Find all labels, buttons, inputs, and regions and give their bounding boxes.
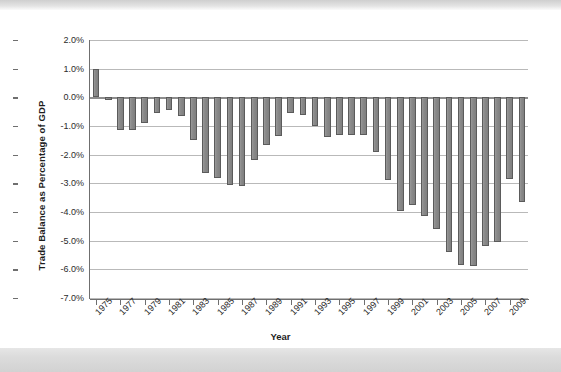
bar: [105, 97, 112, 100]
page-bottom-edge: [0, 348, 561, 372]
bar: [336, 97, 343, 134]
bar: [251, 97, 258, 160]
bar: [458, 97, 465, 265]
bar: [166, 97, 173, 110]
bar: [117, 97, 124, 130]
y-axis-tick: [13, 241, 18, 242]
y-axis-tick: [13, 155, 18, 156]
bar: [202, 97, 209, 173]
bar: [373, 97, 380, 151]
bar: [397, 97, 404, 210]
x-axis-tick: [437, 299, 438, 305]
x-axis-tick: [291, 299, 292, 305]
y-axis-tick: [13, 183, 18, 184]
y-axis-tick-label: 1.0%: [24, 64, 84, 74]
bar: [519, 97, 526, 202]
bar: [482, 97, 489, 246]
bar: [227, 97, 234, 184]
x-axis-tick: [364, 299, 365, 305]
y-axis-tick-label: 2.0%: [24, 35, 84, 45]
y-axis-tick: [13, 212, 18, 213]
y-axis-tick-label: -1.0%: [24, 121, 84, 131]
y-axis-tick-labels: 2.0%1.0%0.0%-1.0%-2.0%-3.0%-4.0%-5.0%-6.…: [18, 40, 84, 298]
y-axis-tick: [13, 40, 18, 41]
x-axis-tick: [510, 299, 511, 305]
x-axis-title: Year: [0, 331, 561, 342]
bar: [154, 97, 161, 113]
y-axis-tick-label: 0.0%: [24, 92, 84, 102]
bar: [324, 97, 331, 137]
bar: [446, 97, 453, 252]
bar: [275, 97, 282, 136]
bar: [287, 97, 294, 113]
bar: [506, 97, 513, 179]
bar: [300, 97, 307, 114]
y-axis-tick: [13, 269, 18, 270]
bar: [93, 69, 100, 98]
y-axis-tick: [13, 97, 18, 98]
x-axis-tick: [145, 299, 146, 305]
y-axis-tick: [13, 298, 18, 299]
y-axis-tick: [13, 126, 18, 127]
bar: [190, 97, 197, 140]
bar: [312, 97, 319, 126]
bar: [348, 97, 355, 134]
page-top-edge: [0, 0, 561, 10]
y-axis-tick-label: -6.0%: [24, 264, 84, 274]
bar: [494, 97, 501, 242]
bar: [214, 97, 221, 177]
plot-area: [90, 40, 528, 298]
bar-series: [90, 40, 528, 298]
y-axis-tick: [13, 69, 18, 70]
y-axis-tick-label: -5.0%: [24, 236, 84, 246]
bar: [409, 97, 416, 205]
bar: [141, 97, 148, 123]
y-axis-tick-label: -4.0%: [24, 207, 84, 217]
y-axis-tick-label: -7.0%: [24, 293, 84, 303]
bar: [129, 97, 136, 130]
bar: [385, 97, 392, 180]
y-axis-tick-label: -2.0%: [24, 150, 84, 160]
chart-page: Trade Balance as Percentage of GDP 2.0%1…: [0, 0, 561, 372]
bar: [360, 97, 367, 134]
bar: [263, 97, 270, 144]
bar: [433, 97, 440, 229]
bar-chart: Trade Balance as Percentage of GDP 2.0%1…: [0, 10, 561, 348]
y-axis-tick-label: -3.0%: [24, 178, 84, 188]
x-axis-tick: [218, 299, 219, 305]
bar: [470, 97, 477, 266]
bar: [239, 97, 246, 186]
bar: [421, 97, 428, 216]
bar: [178, 97, 185, 116]
